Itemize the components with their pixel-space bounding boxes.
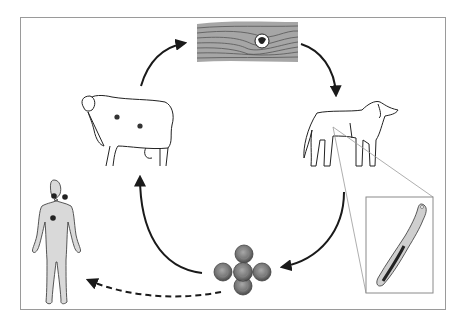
human-icon	[32, 180, 80, 304]
arrow-eggs-to-human	[88, 280, 221, 296]
arrow-dog-to-eggs	[282, 192, 344, 267]
tapeworm-inset	[366, 197, 433, 293]
muscle-cyst-icon	[197, 22, 298, 63]
arrow-eggs-to-sheep	[140, 177, 202, 273]
eggs-icon	[214, 245, 271, 295]
life-cycle-diagram	[0, 0, 464, 325]
dog-icon	[304, 101, 398, 166]
cycle-arrows	[88, 43, 344, 296]
diagram-canvas	[0, 0, 464, 325]
arrow-sheep-to-muscle	[141, 43, 185, 86]
sheep-icon	[82, 95, 173, 166]
arrow-muscle-to-dog	[301, 44, 336, 95]
